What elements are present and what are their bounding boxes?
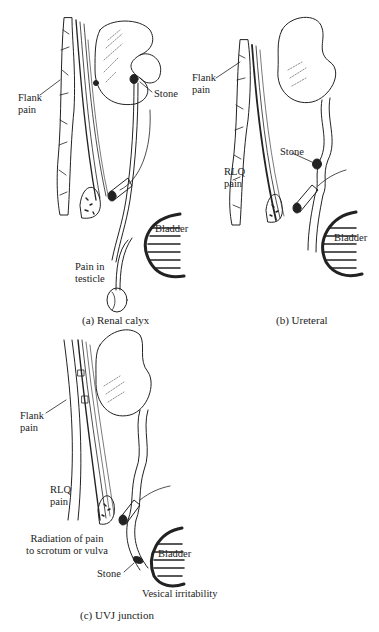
label-line: Flank [192, 72, 216, 84]
label-line: pain [20, 422, 44, 434]
label-a-stone: Stone [154, 88, 178, 100]
label-line: to scrotum or vulva [26, 545, 108, 557]
label-b-flank-pain: Flank pain [192, 72, 216, 96]
label-line: pain [192, 84, 216, 96]
label-c-bladder: Bladder [158, 548, 191, 560]
label-line: Radiation of pain [26, 533, 108, 545]
label-line: RLQ [50, 484, 71, 496]
label-b-bladder: Bladder [334, 232, 367, 244]
label-c-vesical-irritability: Vesical irritability [142, 588, 218, 600]
label-line: pain [224, 178, 245, 190]
caption-a: (a) Renal calyx [82, 314, 149, 327]
caption-b: (b) Ureteral [276, 314, 328, 327]
label-a-flank-pain: Flank pain [18, 92, 42, 116]
label-line: Flank [20, 410, 44, 422]
label-line: testicle [75, 273, 105, 285]
label-c-flank-pain: Flank pain [20, 410, 44, 434]
label-line: Pain in [75, 261, 105, 273]
label-line: Flank [18, 92, 42, 104]
caption-c: (c) UVJ junction [80, 609, 154, 622]
label-b-rlq-pain: RLQ pain [224, 166, 245, 190]
label-c-radiation: Radiation of pain to scrotum or vulva [26, 533, 108, 557]
panel-a-illustration [40, 18, 184, 312]
label-c-rlq-pain: RLQ pain [50, 484, 71, 508]
label-a-bladder: Bladder [155, 223, 188, 235]
label-b-stone: Stone [280, 146, 304, 158]
label-line: RLQ [224, 166, 245, 178]
label-line: pain [50, 496, 71, 508]
label-c-stone: Stone [97, 568, 121, 580]
label-a-pain-in-testicle: Pain in testicle [75, 261, 105, 285]
label-line: pain [18, 104, 42, 116]
kidney-stone-pain-figure: Flank pain Stone Bladder Pain in testicl… [0, 0, 379, 632]
